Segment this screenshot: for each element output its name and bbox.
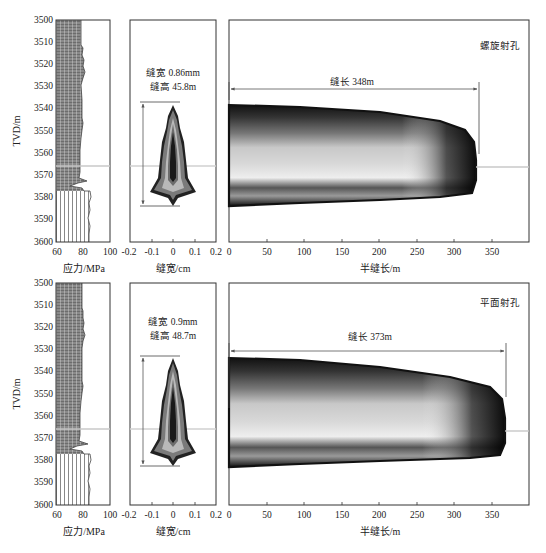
stress-x-label-bottom: 应力/MPa — [63, 525, 105, 537]
fracture-map-bottom — [229, 358, 505, 467]
svg-text:3530: 3530 — [34, 81, 53, 91]
stress-x-ticks-top: 60 80 100 — [52, 247, 117, 257]
svg-text:0: 0 — [171, 510, 176, 520]
svg-text:3560: 3560 — [34, 148, 53, 158]
svg-text:150: 150 — [335, 247, 350, 257]
width-contour-bottom — [150, 358, 196, 466]
height-annotation-bottom: 缝高 48.7m — [150, 330, 197, 341]
svg-text:-0.2: -0.2 — [121, 247, 136, 257]
length-annotation-bottom: 缝长 373m — [348, 331, 393, 342]
svg-text:3530: 3530 — [34, 344, 53, 354]
svg-text:3510: 3510 — [34, 300, 53, 310]
fracture-map-top — [229, 105, 476, 206]
svg-text:3600: 3600 — [34, 500, 53, 510]
length-panel-bottom: 缝长 373m 平面射孔 — [229, 283, 529, 505]
svg-text:60: 60 — [52, 510, 62, 520]
svg-text:3500: 3500 — [34, 15, 53, 25]
svg-text:-0.1: -0.1 — [144, 247, 159, 257]
svg-text:250: 250 — [410, 247, 425, 257]
width-contour-top — [150, 105, 196, 206]
svg-text:3570: 3570 — [34, 170, 53, 180]
width-x-ticks-top: -0.2 -0.1 0 0.1 0.2 — [121, 247, 222, 257]
y-axis-label-bottom: TVD/m — [11, 378, 22, 409]
svg-text:50: 50 — [262, 247, 272, 257]
svg-text:350: 350 — [485, 247, 500, 257]
length-x-label-top: 半缝长/m — [360, 262, 401, 274]
width-x-label-bottom: 缝宽/cm — [156, 525, 191, 537]
y-axis-top: 3500 3510 3520 3530 3540 3550 3560 3570 … — [34, 15, 53, 247]
width-panel-bottom: 缝宽 0.9mm 缝高 48.7m — [130, 283, 216, 505]
svg-text:3580: 3580 — [34, 455, 53, 465]
svg-text:-0.1: -0.1 — [144, 510, 159, 520]
width-annotation-bottom: 缝宽 0.9mm — [148, 316, 198, 327]
svg-text:3570: 3570 — [34, 433, 53, 443]
width-x-ticks-bottom: -0.2 -0.1 0 0.1 0.2 — [121, 510, 222, 520]
svg-text:3560: 3560 — [34, 411, 53, 421]
length-panel-top: 缝长 348m 螺旋射孔 — [229, 20, 529, 242]
svg-text:80: 80 — [78, 247, 88, 257]
stress-panel-top — [56, 20, 110, 242]
row-bottom: 3500 3510 3520 3530 3540 3550 3560 3570 … — [11, 278, 529, 537]
svg-text:3580: 3580 — [34, 192, 53, 202]
svg-text:80: 80 — [78, 510, 88, 520]
svg-text:3550: 3550 — [34, 389, 53, 399]
stress-panel-bottom — [56, 283, 110, 505]
svg-text:300: 300 — [447, 247, 462, 257]
svg-text:0: 0 — [171, 247, 176, 257]
length-x-ticks-bottom: 0 50 100 150 200 250 300 350 — [227, 510, 500, 520]
svg-text:3520: 3520 — [34, 322, 53, 332]
svg-text:0.2: 0.2 — [210, 247, 222, 257]
y-axis-label-top: TVD/m — [11, 115, 22, 146]
length-annotation-top: 缝长 348m — [330, 76, 375, 87]
svg-text:50: 50 — [262, 510, 272, 520]
stress-x-label-top: 应力/MPa — [63, 262, 105, 274]
svg-text:60: 60 — [52, 247, 62, 257]
svg-text:200: 200 — [372, 510, 387, 520]
svg-text:3510: 3510 — [34, 37, 53, 47]
svg-text:3550: 3550 — [34, 126, 53, 136]
case-label-bottom: 平面射孔 — [480, 297, 520, 308]
svg-text:0: 0 — [227, 510, 232, 520]
svg-text:0.1: 0.1 — [189, 510, 201, 520]
width-panel-top: 缝宽 0.86mm 缝高 45.8m — [130, 20, 216, 242]
svg-text:3540: 3540 — [34, 103, 53, 113]
svg-text:3520: 3520 — [34, 59, 53, 69]
svg-text:350: 350 — [485, 510, 500, 520]
svg-text:100: 100 — [103, 247, 118, 257]
svg-text:3590: 3590 — [34, 214, 53, 224]
height-annotation-top: 缝高 45.8m — [150, 81, 197, 92]
svg-text:3600: 3600 — [34, 237, 53, 247]
svg-text:200: 200 — [372, 247, 387, 257]
svg-text:0: 0 — [227, 247, 232, 257]
svg-text:3590: 3590 — [34, 477, 53, 487]
stress-profile-sparse — [56, 191, 91, 242]
svg-text:0.1: 0.1 — [189, 247, 201, 257]
stress-x-ticks-bottom: 60 80 100 — [52, 510, 117, 520]
svg-text:100: 100 — [103, 510, 118, 520]
width-x-label-top: 缝宽/cm — [156, 262, 191, 274]
width-annotation-top: 缝宽 0.86mm — [146, 67, 200, 78]
svg-text:-0.2: -0.2 — [121, 510, 136, 520]
svg-text:300: 300 — [447, 510, 462, 520]
length-x-ticks-top: 0 50 100 150 200 250 300 350 — [227, 247, 500, 257]
row-top: 3500 3510 3520 3530 3540 3550 3560 3570 … — [11, 15, 529, 274]
svg-text:3500: 3500 — [34, 278, 53, 288]
svg-text:250: 250 — [410, 510, 425, 520]
svg-text:150: 150 — [335, 510, 350, 520]
svg-text:3540: 3540 — [34, 366, 53, 376]
case-label-top: 螺旋射孔 — [480, 40, 520, 51]
y-axis-bottom: 3500 3510 3520 3530 3540 3550 3560 3570 … — [34, 278, 53, 510]
svg-text:100: 100 — [297, 247, 312, 257]
svg-text:0.2: 0.2 — [210, 510, 222, 520]
length-x-label-bottom: 半缝长/m — [360, 525, 401, 537]
svg-text:100: 100 — [297, 510, 312, 520]
figure: 3500 3510 3520 3530 3540 3550 3560 3570 … — [0, 0, 546, 553]
